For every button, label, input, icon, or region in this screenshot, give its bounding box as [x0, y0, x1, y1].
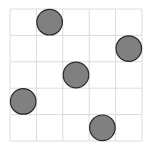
grid-board — [0, 0, 153, 144]
piece-circle — [116, 36, 142, 62]
piece-circle — [90, 115, 116, 141]
piece-circle — [10, 89, 36, 115]
piece-circle — [37, 9, 63, 35]
pieces — [10, 9, 141, 140]
piece-circle — [63, 62, 89, 88]
